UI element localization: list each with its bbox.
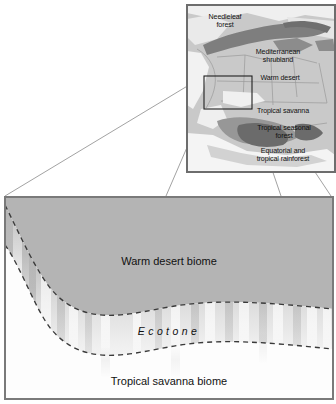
ecotone-graphic: [5, 197, 333, 399]
map-label-equatorial-rainforest: Equatorial andtropical rainforest: [237, 147, 329, 164]
ecotone-detail-panel: Warm desert biome Ecotone Tropical savan…: [4, 196, 334, 400]
map-label-tropical-savanna: Tropical savanna: [241, 107, 325, 115]
label-ecotone: Ecotone: [5, 325, 333, 337]
label-warm-desert-biome: Warm desert biome: [5, 255, 333, 267]
ecotone-figure: Needleleafforest Mediterraneanshrubland …: [0, 0, 336, 404]
map-label-mediterranean-shrubland: Mediterraneanshrubland: [245, 48, 311, 65]
map-label-warm-desert: Warm desert: [249, 74, 311, 82]
label-tropical-savanna-biome: Tropical savanna biome: [5, 375, 333, 387]
map-label-tropical-seasonal-forest: Tropical seasonalforest: [241, 124, 327, 141]
world-biome-map-inset: Needleleafforest Mediterraneanshrubland …: [186, 4, 336, 173]
map-label-needleleaf-forest: Needleleafforest: [199, 13, 251, 30]
